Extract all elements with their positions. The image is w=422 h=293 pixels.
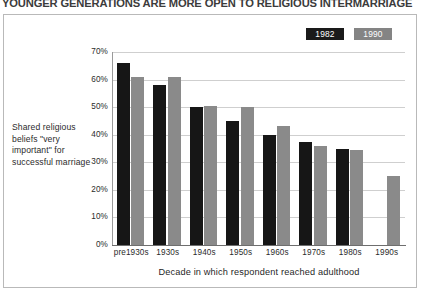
bar-1960s-1982 <box>263 135 276 245</box>
chart-legend: 1982 1990 <box>306 28 392 40</box>
page-title: YOUNGER GENERATIONS ARE MORE OPEN TO REL… <box>2 0 422 10</box>
bar-1950s-1990 <box>241 107 254 245</box>
bar-1960s-1990 <box>277 126 290 245</box>
gridline-60 <box>113 80 405 81</box>
legend-item-1982[interactable]: 1982 <box>306 28 344 40</box>
bar-pre1930s-1982 <box>117 63 130 245</box>
y-tick-label: 0% <box>78 240 108 249</box>
x-tick-label-pre1930s: pre1930s <box>113 248 150 257</box>
y-tick-label: 60% <box>78 75 108 84</box>
bar-1940s-1990 <box>204 106 217 245</box>
bar-pre1930s-1990 <box>131 77 144 245</box>
y-axis: 70%60%50%40%30%20%10%0% <box>76 52 108 245</box>
x-tick-label-1930s: 1930s <box>150 248 187 257</box>
x-tick-label-1990s: 1990s <box>369 248 406 257</box>
x-tick-label-1970s: 1970s <box>296 248 333 257</box>
y-tick-label: 50% <box>78 102 108 111</box>
x-tick-label-1960s: 1960s <box>259 248 296 257</box>
plot-area <box>113 52 405 245</box>
y-tick-label: 20% <box>78 185 108 194</box>
x-tick-label-1980s: 1980s <box>332 248 369 257</box>
bar-1990s-1990 <box>387 176 400 245</box>
bar-1950s-1982 <box>226 121 239 245</box>
y-tick-label: 10% <box>78 212 108 221</box>
bar-1980s-1982 <box>336 149 349 246</box>
y-axis-line <box>112 52 113 246</box>
bar-1970s-1990 <box>314 146 327 245</box>
x-axis-title: Decade in which respondent reached adult… <box>113 267 405 277</box>
y-tick-label: 40% <box>78 130 108 139</box>
x-tick-label-1950s: 1950s <box>223 248 260 257</box>
y-tick-label: 70% <box>78 47 108 56</box>
y-tick-label: 30% <box>78 157 108 166</box>
bar-1940s-1982 <box>190 107 203 245</box>
bar-1930s-1990 <box>168 77 181 245</box>
x-tick-label-1940s: 1940s <box>186 248 223 257</box>
bar-1930s-1982 <box>153 85 166 245</box>
gridline-70 <box>113 52 405 53</box>
x-axis-tick-labels: pre1930s1930s1940s1950s1960s1970s1980s19… <box>113 248 405 262</box>
bar-1980s-1990 <box>350 150 363 245</box>
bar-1970s-1982 <box>299 142 312 245</box>
legend-item-1990[interactable]: 1990 <box>354 28 392 40</box>
x-axis-line <box>112 245 406 246</box>
